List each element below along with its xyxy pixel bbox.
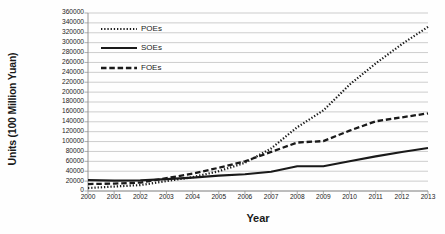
series-line-soes — [88, 148, 428, 181]
legend-label-poes: POEs — [141, 24, 162, 33]
x-axis-tick-marks — [88, 191, 428, 195]
gridlines — [88, 13, 428, 191]
plot-area — [0, 0, 445, 234]
line-chart: Units (100 Million Yuan) 020000400006000… — [0, 0, 445, 234]
legend-label-foes: FOEs — [141, 63, 161, 72]
x-axis-title: Year — [88, 212, 428, 224]
series-line-poes — [88, 27, 428, 188]
y-axis-tick-marks — [85, 13, 89, 191]
data-series-layer — [88, 27, 428, 188]
legend-label-soes: SOEs — [141, 43, 162, 52]
